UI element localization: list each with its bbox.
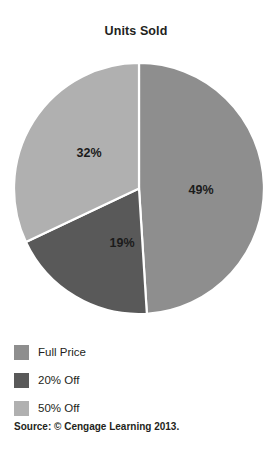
chart-title: Units Sold <box>0 24 272 38</box>
legend-swatch-50-off <box>14 401 29 416</box>
legend-item-20-off[interactable]: 20% Off <box>14 372 258 388</box>
pie-label-full-price: 49% <box>188 183 213 197</box>
chart-legend: Full Price 20% Off 50% Off <box>14 344 258 416</box>
pie-label-50-off: 32% <box>76 146 101 160</box>
source-note: Source: © Cengage Learning 2013. <box>14 421 179 432</box>
legend-item-full-price[interactable]: Full Price <box>14 344 258 360</box>
pie-chart-svg: 49% 19% 32% <box>14 63 264 314</box>
legend-item-50-off[interactable]: 50% Off <box>14 400 258 416</box>
pie-chart: 49% 19% 32% <box>14 63 264 314</box>
legend-swatch-20-off <box>14 373 29 388</box>
legend-swatch-full-price <box>14 345 29 360</box>
legend-label-50-off: 50% Off <box>38 401 79 416</box>
legend-label-20-off: 20% Off <box>38 373 79 388</box>
pie-label-20-off: 19% <box>109 236 134 250</box>
legend-label-full-price: Full Price <box>38 345 86 360</box>
